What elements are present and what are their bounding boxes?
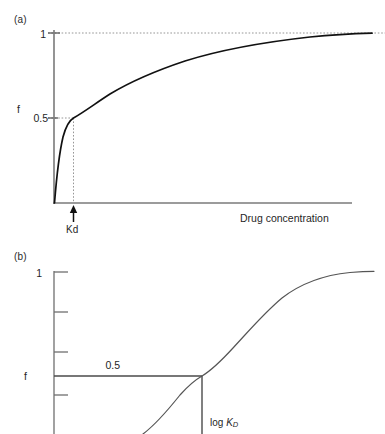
panel-a-x-axis-title: Drug concentration [240, 212, 329, 224]
panel-a-kd-annotation: Kd [66, 224, 78, 235]
panel-a-ytick-half: 0.5 [26, 112, 48, 124]
panel-b-y-axis-title: f [24, 370, 27, 382]
panel-b-logkd-annotation: log KD [210, 417, 238, 429]
panel-a-kd-arrow-head [70, 205, 77, 213]
panel-a-curve [55, 33, 373, 203]
panel-a-plot [0, 0, 385, 240]
logkd-subscript: D [233, 420, 238, 429]
panel-b-ytick-1: 1 [28, 267, 42, 279]
panel-a-ytick-1: 1 [30, 28, 46, 40]
logkd-symbol: K [226, 417, 233, 428]
panel-b-label: (b) [14, 251, 27, 262]
figure-binding-curves: (a) 1 f 0.5 Drug concentration Kd [0, 0, 385, 434]
panel-b-plot [0, 240, 385, 434]
panel-a-y-axis-title: f [17, 103, 20, 115]
panel-b-half-label: 0.5 [96, 359, 120, 371]
panel-a-label: (a) [14, 14, 27, 25]
panel-b-curve [143, 271, 374, 434]
panel-b: (b) 1 f 0.5 log KD [0, 240, 385, 434]
logkd-prefix: log [210, 417, 226, 428]
panel-a: (a) 1 f 0.5 Drug concentration Kd [0, 0, 385, 240]
